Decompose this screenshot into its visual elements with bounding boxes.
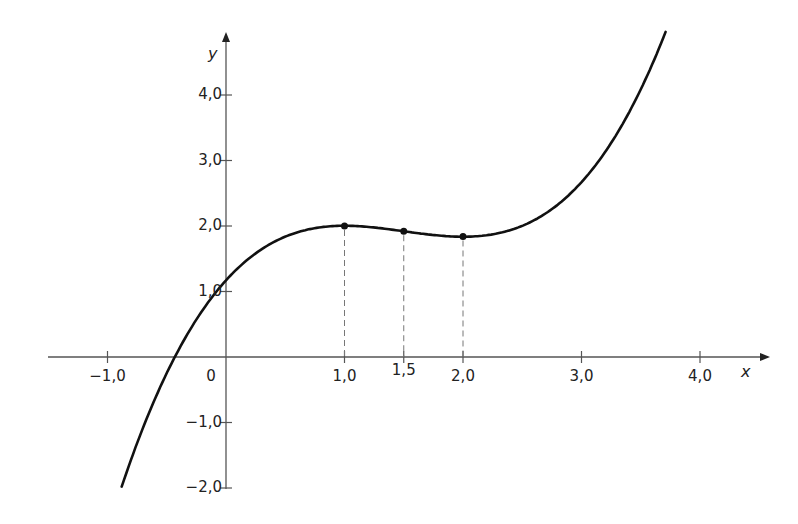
x-tick-label: 3,0 <box>570 369 594 384</box>
marked-point <box>400 228 407 235</box>
x-tick-label: 1,5 <box>392 363 416 378</box>
dashed-guide-lines <box>345 230 464 357</box>
y-tick-label: 4,0 <box>198 87 222 102</box>
x-axis-label: x <box>741 364 750 380</box>
y-tick-label: 3,0 <box>198 153 222 168</box>
y-tick-label: 1,0 <box>198 284 222 299</box>
cubic-function-chart: −1,01,01,52,03,04,04,03,02,01,0−1,0−2,00… <box>0 0 798 524</box>
y-axis-arrow-icon <box>222 32 230 42</box>
plot-area <box>0 0 798 524</box>
x-tick-label: 1,0 <box>333 369 357 384</box>
axes <box>48 32 770 489</box>
x-axis-arrow-icon <box>760 353 770 361</box>
y-tick-label: −2,0 <box>186 480 222 495</box>
x-tick-label: 4,0 <box>688 369 712 384</box>
y-tick-label: −1,0 <box>186 415 222 430</box>
x-tick-label: 2,0 <box>451 369 475 384</box>
marked-point <box>460 233 467 240</box>
y-axis-label: y <box>208 46 217 62</box>
y-tick-label: 2,0 <box>198 218 222 233</box>
marked-point <box>341 223 348 230</box>
origin-label: 0 <box>206 369 216 384</box>
x-tick-label: −1,0 <box>89 369 125 384</box>
